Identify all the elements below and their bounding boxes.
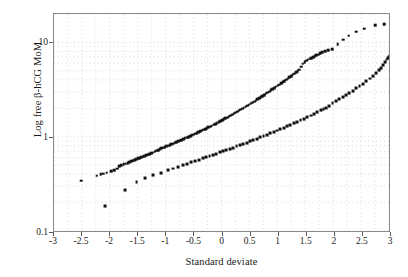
data-point xyxy=(365,80,368,83)
x-tick-mark xyxy=(362,232,363,236)
data-point xyxy=(331,48,334,51)
data-point xyxy=(194,160,197,163)
data-point xyxy=(368,77,371,80)
x-tick-mark xyxy=(390,232,391,236)
data-point xyxy=(374,72,377,75)
data-point xyxy=(102,172,105,175)
data-point xyxy=(388,54,390,57)
data-point xyxy=(135,180,138,183)
data-point xyxy=(104,204,107,207)
data-point xyxy=(363,27,366,30)
data-point xyxy=(298,68,301,71)
data-point xyxy=(172,167,175,170)
data-point xyxy=(159,172,162,175)
x-tick-mark xyxy=(137,232,138,236)
x-tick-mark xyxy=(306,232,307,236)
data-point xyxy=(300,65,303,68)
data-point xyxy=(144,177,147,180)
y-axis-title: Log free β-hCG MoM xyxy=(32,0,43,180)
data-point xyxy=(374,24,377,27)
data-point xyxy=(197,158,200,161)
x-tick-mark xyxy=(193,232,194,236)
data-point xyxy=(151,174,154,177)
plot-area xyxy=(53,13,390,232)
data-point xyxy=(167,169,170,172)
data-point xyxy=(379,66,382,69)
data-point xyxy=(382,63,385,66)
x-axis-title: Standard deviate xyxy=(53,256,390,267)
chart-figure: 1010.1 -3-2.5-2-1.5-1-0.500.511.522.53 L… xyxy=(0,0,408,277)
data-point xyxy=(186,162,189,165)
data-point xyxy=(348,35,351,38)
data-point xyxy=(361,82,364,85)
data-point xyxy=(372,74,375,77)
data-point xyxy=(383,61,386,64)
x-tick-mark xyxy=(109,232,110,236)
data-point xyxy=(355,31,358,34)
data-point xyxy=(383,23,386,26)
x-tick-mark xyxy=(53,232,54,236)
data-point xyxy=(190,161,193,164)
data-point xyxy=(327,49,330,52)
y-tick-mark xyxy=(49,137,53,138)
data-point xyxy=(105,171,108,174)
data-point xyxy=(80,179,83,182)
x-tick-label: 3 xyxy=(370,236,408,246)
data-point xyxy=(95,174,98,177)
data-point xyxy=(177,165,180,168)
data-points-layer xyxy=(54,14,389,231)
data-point xyxy=(377,69,380,72)
data-point xyxy=(124,189,127,192)
data-point xyxy=(342,39,345,42)
data-point xyxy=(181,164,184,167)
x-tick-mark xyxy=(278,232,279,236)
x-tick-mark xyxy=(334,232,335,236)
x-tick-mark xyxy=(165,232,166,236)
data-point xyxy=(336,43,339,46)
x-tick-mark xyxy=(222,232,223,236)
x-tick-mark xyxy=(250,232,251,236)
x-tick-mark xyxy=(81,232,82,236)
y-tick-mark xyxy=(49,42,53,43)
